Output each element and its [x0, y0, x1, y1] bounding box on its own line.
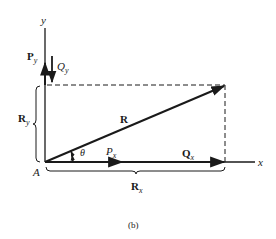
y-axis-label: y — [41, 15, 46, 26]
px-label: Px — [106, 146, 116, 157]
figure-caption: (b) — [128, 221, 139, 230]
px-label-main: P — [106, 145, 113, 157]
qx-label-sub: x — [191, 153, 195, 162]
ry-label-main: R — [18, 112, 26, 124]
rx-label: Rx — [131, 181, 143, 192]
ry-brace — [33, 86, 40, 162]
vector-diagram — [0, 0, 276, 239]
px-label-sub: x — [113, 151, 117, 160]
rx-label-main: R — [131, 180, 139, 192]
vector-r — [45, 86, 224, 162]
qy-label: Qy — [57, 61, 69, 72]
theta-label: θ — [80, 148, 85, 158]
ry-label: Ry — [18, 113, 30, 124]
qx-label-main: Q — [182, 147, 191, 159]
qy-label-main: Q — [57, 60, 65, 72]
origin-label: A — [33, 167, 40, 178]
x-axis-label: x — [258, 157, 263, 168]
rx-brace — [46, 167, 225, 174]
py-label-main: P — [27, 50, 34, 62]
qx-label: Qx — [182, 148, 194, 159]
qy-label-sub: y — [65, 66, 69, 75]
r-label: R — [120, 114, 128, 125]
ry-label-sub: y — [26, 118, 30, 127]
rx-label-sub: x — [139, 186, 143, 195]
py-label-sub: y — [34, 56, 38, 65]
py-label: Py — [27, 51, 37, 62]
